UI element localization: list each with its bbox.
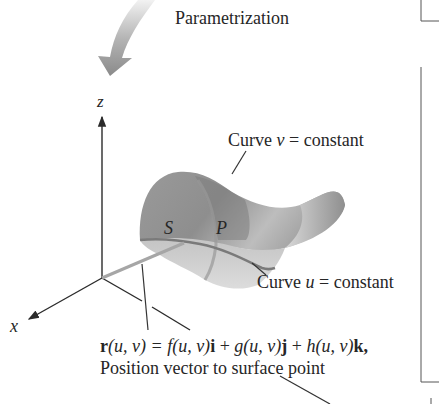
eq-args4: (u, v) bbox=[315, 336, 353, 356]
eq-plus1: + bbox=[215, 336, 234, 356]
x-axis bbox=[29, 278, 102, 319]
eq-args1: (u, v) = bbox=[108, 336, 167, 356]
curve-v-suffix: = constant bbox=[285, 130, 364, 150]
eq-plus2: + bbox=[287, 336, 306, 356]
eq-args2: (u, v) bbox=[172, 336, 210, 356]
curve-v-label: Curve v = constant bbox=[228, 130, 364, 151]
parametrization-label: Parametrization bbox=[175, 8, 289, 29]
eq-g: g bbox=[234, 336, 243, 356]
position-equation: r(u, v) = f(u, v)i + g(u, v)j + h(u, v)k… bbox=[100, 336, 368, 357]
surface-label: S bbox=[164, 218, 173, 239]
curve-u-var: u bbox=[306, 272, 315, 292]
curve-v-prefix: Curve bbox=[228, 130, 277, 150]
curve-u-label: Curve u = constant bbox=[257, 272, 394, 293]
position-caption: Position vector to surface point bbox=[100, 358, 325, 379]
curve-v-var: v bbox=[277, 130, 285, 150]
curve-u-prefix: Curve bbox=[257, 272, 306, 292]
z-axis-label: z bbox=[97, 92, 104, 112]
parametrization-arrow-icon bbox=[98, 0, 155, 76]
eq-args3: (u, v) bbox=[243, 336, 281, 356]
eq-r: r bbox=[100, 336, 108, 356]
x-axis-label: x bbox=[10, 316, 18, 337]
point-label: P bbox=[216, 218, 227, 239]
diagram-canvas: Parametrization z x Curve v = constant S… bbox=[0, 0, 439, 404]
curve-u-suffix: = constant bbox=[315, 272, 394, 292]
eq-comma: , bbox=[363, 336, 368, 356]
eq-k: k bbox=[353, 336, 363, 356]
page-bracket-lines bbox=[421, 0, 439, 404]
